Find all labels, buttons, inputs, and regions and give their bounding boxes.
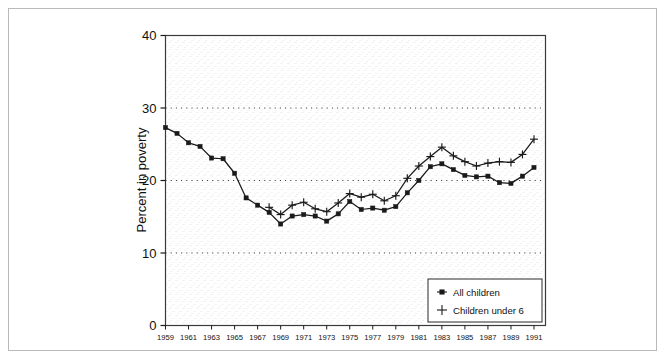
y-tick-label-0: 0 [149, 318, 156, 333]
x-tick-label-1973: 1973 [318, 333, 335, 342]
data-point-marker [175, 131, 179, 135]
x-tick-label-1963: 1963 [203, 333, 220, 342]
x-tick-label-1969: 1969 [272, 333, 289, 342]
x-tick-label-1981: 1981 [410, 333, 427, 342]
data-point-marker [463, 173, 467, 177]
data-point-marker [440, 162, 444, 166]
data-point-marker [302, 212, 306, 216]
data-point-marker [232, 171, 236, 175]
x-tick-label-1965: 1965 [226, 333, 243, 342]
data-point-marker [371, 206, 375, 210]
data-point-marker [163, 125, 167, 129]
y-tick-label-10: 10 [142, 246, 156, 261]
data-point-marker [279, 222, 283, 226]
x-tick-label-1979: 1979 [387, 333, 404, 342]
y-axis-title: Percent in poverty [134, 127, 149, 232]
x-tick-label-1959: 1959 [157, 333, 174, 342]
data-point-marker [509, 181, 513, 185]
data-point-marker [497, 181, 501, 185]
data-point-marker [486, 174, 490, 178]
data-point-marker [244, 196, 248, 200]
chart-plot-area: 0102030401959196119631965196719691971197… [0, 0, 667, 361]
data-point-marker [532, 165, 536, 169]
data-point-marker [359, 207, 363, 211]
x-tick-label-1991: 1991 [526, 333, 543, 342]
x-tick-label-1977: 1977 [364, 333, 381, 342]
x-tick-label-1975: 1975 [341, 333, 358, 342]
figure-container: 0102030401959196119631965196719691971197… [0, 0, 667, 361]
x-tick-label-1983: 1983 [433, 333, 450, 342]
x-tick-label-1971: 1971 [295, 333, 312, 342]
y-tick-label-30: 30 [142, 101, 156, 116]
data-point-marker [428, 165, 432, 169]
y-tick-label-40: 40 [142, 28, 156, 43]
data-point-marker [186, 141, 190, 145]
x-tick-label-1987: 1987 [479, 333, 496, 342]
data-point-marker [394, 205, 398, 209]
data-point-marker [221, 157, 225, 161]
data-point-marker [325, 219, 329, 223]
x-tick-label-1985: 1985 [456, 333, 473, 342]
legend-label-children-under-6: Children under 6 [453, 305, 524, 316]
data-point-marker [382, 208, 386, 212]
data-point-marker [209, 156, 213, 160]
line-chart-svg: 0102030401959196119631965196719691971197… [0, 0, 667, 361]
data-point-marker [256, 203, 260, 207]
data-point-marker [451, 168, 455, 172]
data-point-marker [474, 175, 478, 179]
x-tick-label-1989: 1989 [503, 333, 520, 342]
data-point-marker [313, 214, 317, 218]
data-point-marker [520, 174, 524, 178]
data-point-marker [348, 199, 352, 203]
data-point-marker [336, 212, 340, 216]
x-tick-label-1961: 1961 [180, 333, 197, 342]
data-point-marker [198, 144, 202, 148]
data-point-marker [417, 178, 421, 182]
legend-label-all-children: All children [453, 287, 500, 298]
data-point-marker [405, 191, 409, 195]
x-tick-label-1967: 1967 [249, 333, 266, 342]
data-point-marker [290, 214, 294, 218]
